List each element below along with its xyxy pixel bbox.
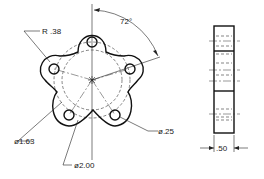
angle-reference-line <box>92 57 160 80</box>
center-mark <box>88 76 96 84</box>
bolt-circle-label: ø1.63 <box>14 137 35 146</box>
thickness-label: .50 <box>216 144 228 153</box>
hole-right <box>125 64 135 74</box>
hole-diameter-label: ø.25 <box>158 127 175 136</box>
hole-left <box>49 64 59 74</box>
outer-diameter-label: ø2.00 <box>74 161 95 170</box>
drawing-canvas: 72° R .38 ø1.63 ø2.00 ø.25 <box>0 0 264 179</box>
radius-label: R .38 <box>42 27 62 36</box>
hidden-lines <box>216 36 232 120</box>
front-view: 72° R .38 ø1.63 ø2.00 ø.25 <box>14 4 175 170</box>
hole-bottom-right <box>110 110 120 120</box>
angle-label: 72° <box>120 17 132 26</box>
side-view: .50 <box>200 26 248 153</box>
hole-bottom-left <box>64 110 74 120</box>
